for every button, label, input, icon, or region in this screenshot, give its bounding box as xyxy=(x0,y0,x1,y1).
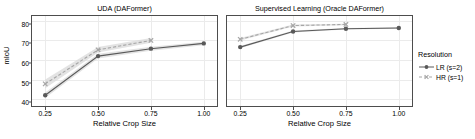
plot-svg-uda xyxy=(32,16,217,106)
legend-item-lr[interactable]: LR (s=2) xyxy=(418,62,475,72)
x-tick-label: 0.50 xyxy=(286,110,299,117)
x-axis-label-supervised: Relative Crop Size xyxy=(226,119,413,128)
data-point-marker xyxy=(96,54,100,58)
legend-key-lr-icon xyxy=(418,62,435,72)
chart-figure: mIoU 4050607080 UDA (DAFormer) 0.250.500… xyxy=(0,0,475,139)
data-point-marker xyxy=(202,41,206,45)
data-point-marker xyxy=(149,46,153,50)
x-tick-label: 0.75 xyxy=(339,110,352,117)
panel-supervised: Supervised Learning (Oracle DAFormer) 0.… xyxy=(226,2,413,128)
x-tick-label: 0.50 xyxy=(91,110,104,117)
y-tick-label: 80 xyxy=(21,20,29,27)
panel-strip-supervised: Supervised Learning (Oracle DAFormer) xyxy=(226,2,413,15)
panel-strip-uda: UDA (DAFormer) xyxy=(31,2,218,15)
legend-title: Resolution xyxy=(418,50,475,59)
plot-area-uda xyxy=(31,15,218,107)
panel-uda: UDA (DAFormer) 0.250.500.751.00 Relative… xyxy=(31,2,218,128)
x-tick-label: 1.00 xyxy=(392,110,405,117)
data-point-marker xyxy=(291,29,295,33)
y-tick-label: 40 xyxy=(21,99,29,106)
confidence-band xyxy=(45,38,151,88)
legend: Resolution LR (s=2) HR (s=1) xyxy=(418,50,475,82)
x-axis-label-uda: Relative Crop Size xyxy=(31,119,218,128)
x-tick-label: 0.25 xyxy=(234,110,247,117)
x-axis-supervised: 0.250.500.751.00 xyxy=(226,107,413,118)
x-tick-label: 0.75 xyxy=(144,110,157,117)
y-axis-ticks: 4050607080 xyxy=(13,18,29,110)
data-point-marker xyxy=(344,27,348,31)
x-axis-uda: 0.250.500.751.00 xyxy=(31,107,218,118)
panel-title-supervised: Supervised Learning (Oracle DAFormer) xyxy=(255,4,384,13)
legend-label-lr: LR (s=2) xyxy=(436,64,462,71)
legend-item-hr[interactable]: HR (s=1) xyxy=(418,72,475,82)
legend-label-hr: HR (s=1) xyxy=(436,74,463,81)
x-tick-label: 1.00 xyxy=(197,110,210,117)
data-point-marker xyxy=(397,26,401,30)
y-tick-label: 50 xyxy=(21,79,29,86)
panel-title-uda: UDA (DAFormer) xyxy=(97,4,152,13)
y-tick-label: 60 xyxy=(21,60,29,67)
data-point-marker xyxy=(238,45,242,49)
x-tick-label: 0.25 xyxy=(39,110,52,117)
legend-key-hr-icon xyxy=(418,72,435,82)
y-axis-label: mIoU xyxy=(0,0,14,110)
plot-area-supervised xyxy=(226,15,413,107)
data-point-marker xyxy=(43,93,47,97)
plot-svg-supervised xyxy=(227,16,412,106)
y-axis-label-text: mIoU xyxy=(3,46,12,64)
y-tick-label: 70 xyxy=(21,40,29,47)
